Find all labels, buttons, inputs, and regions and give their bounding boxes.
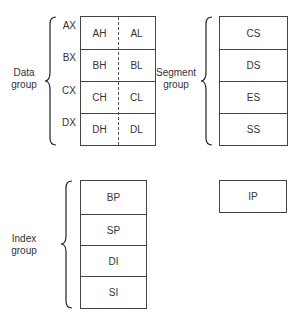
index-register-block: BP SP DI SI (80, 180, 147, 309)
data-group-label: Data group (2, 67, 46, 91)
segment-register-block: CS DS ES SS (219, 16, 288, 146)
register-ip: IP (220, 181, 286, 212)
index-group-label: Index group (4, 233, 44, 257)
register-label-dx: DX (56, 117, 76, 128)
register-dh: DH (81, 114, 118, 145)
register-label-ax: AX (56, 20, 76, 31)
register-si: SI (81, 276, 146, 308)
register-cs: CS (220, 17, 287, 49)
index-group-brace-icon (60, 180, 74, 309)
register-es: ES (220, 81, 287, 113)
register-ch: CH (81, 82, 118, 113)
register-di: DI (81, 245, 146, 276)
index-group-label-line1: Index (4, 233, 44, 245)
segment-group-brace-icon (200, 16, 214, 146)
register-ax: AH AL (81, 17, 155, 49)
data-group-label-line2: group (2, 79, 46, 91)
segment-group-label-line2: group (150, 79, 202, 91)
data-register-block: AH AL BH BL CH CL DH DL (80, 16, 156, 146)
register-label-cx: CX (56, 85, 76, 96)
register-bp: BP (81, 181, 146, 214)
data-group-label-line1: Data (2, 67, 46, 79)
register-al: AL (118, 17, 155, 49)
register-label-bx: BX (56, 52, 76, 63)
register-cx: CH CL (81, 81, 155, 113)
segment-group-label-line1: Segment (150, 67, 202, 79)
register-sp: SP (81, 214, 146, 245)
register-dx: DH DL (81, 113, 155, 145)
register-ah: AH (81, 17, 118, 49)
register-dl: DL (118, 114, 155, 145)
register-bh: BH (81, 50, 118, 81)
index-group-label-line2: group (4, 245, 44, 257)
instruction-pointer-block: IP (219, 180, 287, 213)
register-bx: BH BL (81, 49, 155, 81)
register-ds: DS (220, 49, 287, 81)
segment-group-label: Segment group (150, 67, 202, 91)
register-ss: SS (220, 113, 287, 145)
